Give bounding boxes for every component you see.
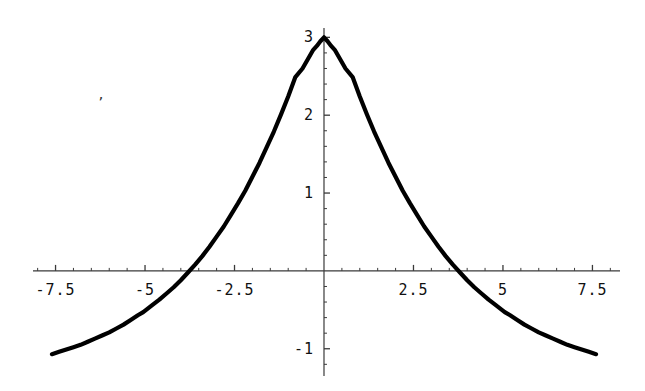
x-tick-label: -2.5: [214, 283, 254, 298]
plot-root: -7.5-5-2.52.557.5 321-1 ’: [0, 0, 645, 391]
y-tick-label: -1: [274, 341, 314, 356]
x-tick-label: 7.5: [577, 283, 607, 298]
chart-canvas: [0, 0, 645, 391]
x-tick-label: -5: [135, 283, 155, 298]
x-tick-label: 2.5: [398, 283, 428, 298]
x-tick-label: 5: [498, 283, 508, 298]
x-tick-label: -7.5: [35, 283, 75, 298]
y-tick-label: 3: [274, 30, 314, 45]
y-tick-label: 1: [274, 186, 314, 201]
y-tick-label: 2: [274, 108, 314, 123]
stray-speck: ’: [97, 95, 105, 110]
y-axis-ticks: [324, 37, 330, 364]
